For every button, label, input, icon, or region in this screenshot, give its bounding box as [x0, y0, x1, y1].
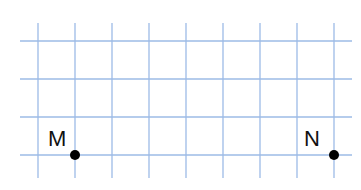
grid-diagram: M N: [0, 0, 361, 190]
point-n-label: N: [304, 126, 320, 151]
grid-lines: [20, 23, 352, 178]
point-n-dot: [329, 150, 339, 160]
point-m-label: M: [48, 126, 66, 151]
point-m-dot: [70, 150, 80, 160]
